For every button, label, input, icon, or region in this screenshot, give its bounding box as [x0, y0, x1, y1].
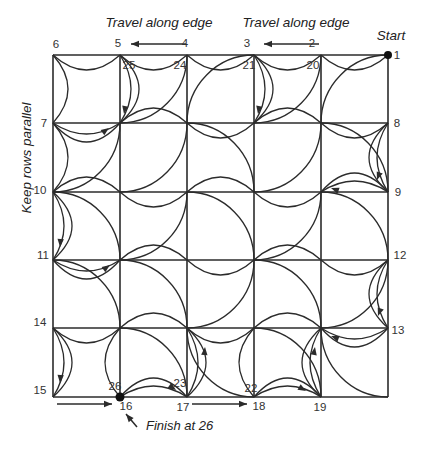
travel-along-edge-label-right: Travel along edge: [242, 15, 349, 30]
point-label-18: 18: [253, 400, 266, 412]
point-label-26: 26: [109, 380, 122, 392]
point-label-23: 23: [174, 377, 187, 389]
point-label-8: 8: [394, 117, 400, 129]
point-label-25: 25: [123, 59, 136, 71]
keep-rows-parallel-label: Keep rows parallel: [19, 101, 34, 213]
point-label-11: 11: [37, 249, 49, 261]
point-label-13: 13: [392, 324, 405, 336]
point-label-9: 9: [395, 186, 401, 198]
point-label-22: 22: [245, 382, 258, 394]
point-label-20: 20: [307, 59, 320, 71]
start-dot: [384, 51, 392, 59]
point-label-12: 12: [394, 249, 407, 261]
point-label-15: 15: [34, 384, 47, 396]
quilting-path-diagram: 6543212524212071011141589121316171819262…: [0, 0, 425, 457]
point-label-16: 16: [120, 400, 133, 412]
point-label-1: 1: [394, 49, 400, 61]
travel-along-edge-label-left: Travel along edge: [105, 15, 212, 30]
point-label-4: 4: [182, 37, 189, 49]
point-label-14: 14: [34, 316, 47, 328]
start-label: Start: [377, 28, 407, 43]
finish-label: Finish at 26: [146, 418, 214, 433]
point-label-21: 21: [243, 59, 256, 71]
point-label-5: 5: [115, 37, 121, 49]
point-label-19: 19: [314, 401, 327, 413]
point-label-10: 10: [34, 184, 47, 196]
point-label-6: 6: [53, 38, 59, 50]
point-label-2: 2: [309, 37, 315, 49]
point-label-7: 7: [41, 117, 47, 129]
point-label-24: 24: [174, 59, 187, 71]
point-label-3: 3: [244, 37, 250, 49]
point-label-17: 17: [177, 401, 190, 413]
diagram-canvas: 6543212524212071011141589121316171819262…: [0, 0, 425, 457]
